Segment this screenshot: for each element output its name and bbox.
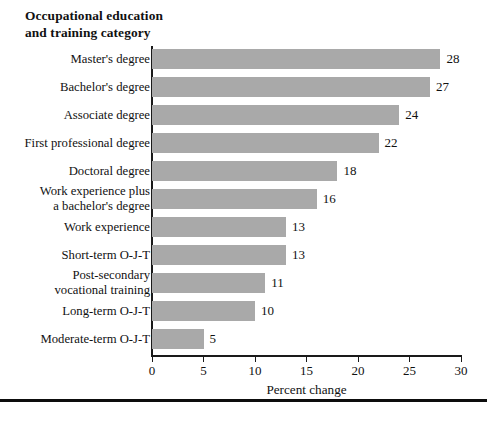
x-axis-tick bbox=[409, 356, 410, 362]
category-label: Bachelor's degree bbox=[0, 80, 150, 95]
x-axis-tick-label: 25 bbox=[390, 363, 430, 379]
bar bbox=[152, 133, 379, 153]
footer-rule bbox=[0, 399, 487, 402]
plot-area: 282724221816131311105 Master's degreeBac… bbox=[0, 0, 487, 421]
category-label: First professional degree bbox=[0, 136, 150, 151]
bar-value-label: 22 bbox=[379, 133, 398, 153]
bar bbox=[152, 273, 265, 293]
category-label: Long-term O-J-T bbox=[0, 304, 150, 319]
bar-value-label: 28 bbox=[440, 49, 459, 69]
bar-value-label: 10 bbox=[255, 301, 274, 321]
x-axis-tick-label: 0 bbox=[132, 363, 172, 379]
bar-chart-figure: Occupational education and training cate… bbox=[0, 0, 487, 421]
bar bbox=[152, 77, 430, 97]
category-label: Post-secondary vocational training bbox=[0, 268, 150, 297]
category-label: Work experience bbox=[0, 220, 150, 235]
x-axis-tick-label: 20 bbox=[338, 363, 378, 379]
bar-value-label: 13 bbox=[286, 245, 305, 265]
category-label: Doctoral degree bbox=[0, 164, 150, 179]
x-axis-tick bbox=[461, 356, 462, 362]
bar bbox=[152, 189, 317, 209]
category-label: Moderate-term O-J-T bbox=[0, 332, 150, 347]
bar bbox=[152, 161, 337, 181]
category-label: Short-term O-J-T bbox=[0, 248, 150, 263]
bar bbox=[152, 217, 286, 237]
x-axis-tick bbox=[255, 356, 256, 362]
bar-value-label: 11 bbox=[265, 273, 284, 293]
x-axis-title: Percent change bbox=[151, 382, 462, 398]
category-label: Master's degree bbox=[0, 52, 150, 67]
bar bbox=[152, 245, 286, 265]
bar-value-label: 18 bbox=[337, 161, 356, 181]
x-axis-tick bbox=[203, 356, 204, 362]
bar bbox=[152, 49, 440, 69]
x-axis-tick bbox=[358, 356, 359, 362]
bar-value-label: 13 bbox=[286, 217, 305, 237]
x-axis-tick bbox=[152, 356, 153, 362]
x-axis-tick-label: 10 bbox=[235, 363, 275, 379]
bar bbox=[152, 329, 204, 349]
x-axis-tick bbox=[306, 356, 307, 362]
bar bbox=[152, 301, 255, 321]
bar-value-label: 24 bbox=[399, 105, 418, 125]
bar-value-label: 5 bbox=[204, 329, 217, 349]
x-axis-tick-label: 15 bbox=[287, 363, 327, 379]
category-label: Associate degree bbox=[0, 108, 150, 123]
bar bbox=[152, 105, 399, 125]
bar-value-label: 16 bbox=[317, 189, 336, 209]
category-label: Work experience plus a bachelor's degree bbox=[0, 184, 150, 213]
x-axis-tick-label: 5 bbox=[184, 363, 224, 379]
bar-value-label: 27 bbox=[430, 77, 449, 97]
x-axis-tick-label: 30 bbox=[441, 363, 481, 379]
